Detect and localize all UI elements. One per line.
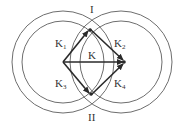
label-k1: K1 (55, 37, 67, 51)
vertex-top-dot (88, 28, 92, 32)
label-k4: K4 (114, 77, 126, 91)
two-source-interference-diagram: I II K1 K2 K3 K4 K (0, 0, 182, 125)
label-intersection-i: I (90, 3, 94, 15)
label-k: K (88, 49, 96, 61)
label-k2: K2 (114, 37, 126, 51)
label-intersection-ii: II (88, 111, 96, 123)
edge-k3 (63, 62, 89, 93)
vertex-right-dot (122, 60, 126, 64)
edge-k1 (63, 31, 88, 62)
label-k3: K3 (55, 77, 67, 91)
vertex-bottom-dot (89, 92, 93, 96)
